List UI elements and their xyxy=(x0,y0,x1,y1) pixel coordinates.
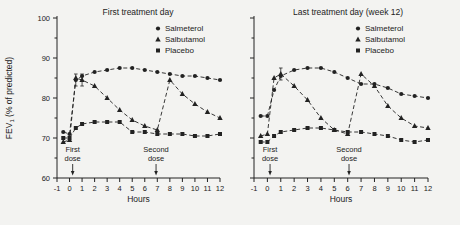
x-tick-label: 3 xyxy=(305,184,309,193)
circle-marker xyxy=(180,74,184,78)
y-axis-label: FEV1 (% of predicted) xyxy=(4,57,15,139)
square-marker xyxy=(359,130,363,134)
chart-title: First treatment day xyxy=(103,7,175,17)
square-marker xyxy=(372,132,376,136)
chart-last-treatment-day: -10123456789101112HoursLast treatment da… xyxy=(238,0,460,225)
circle-marker xyxy=(205,76,209,80)
x-tick-label: 3 xyxy=(105,184,109,193)
dose-text: Second xyxy=(143,145,168,154)
y-tick-label: 80 xyxy=(42,94,50,103)
x-tick-label: 2 xyxy=(93,184,97,193)
square-marker xyxy=(332,128,336,132)
x-tick-label: 11 xyxy=(204,184,212,193)
circle-marker xyxy=(305,66,309,70)
y-tick-label: 60 xyxy=(42,174,50,183)
circle-marker xyxy=(319,66,323,70)
triangle-marker xyxy=(205,109,210,114)
circle-marker xyxy=(426,96,430,100)
circle-marker xyxy=(399,92,403,96)
x-tick-label: 12 xyxy=(216,184,224,193)
square-marker xyxy=(143,130,147,134)
square-marker xyxy=(68,136,72,140)
dose-annotation: Firstdose xyxy=(262,145,278,176)
circle-marker xyxy=(143,68,147,72)
triangle-marker xyxy=(73,75,78,80)
triangle-marker xyxy=(155,37,160,42)
x-tick-label: 5 xyxy=(332,184,336,193)
circle-marker xyxy=(130,66,134,70)
circle-marker xyxy=(105,68,109,72)
triangle-marker xyxy=(265,131,270,136)
fev1-treatment-figure: 60708090100-10123456789101112HoursFEV1 (… xyxy=(0,0,460,225)
x-tick-label: -1 xyxy=(54,184,61,193)
x-tick-label: 2 xyxy=(292,184,296,193)
circle-marker xyxy=(156,26,160,30)
x-tick-label: 8 xyxy=(372,184,376,193)
series-salbutamol xyxy=(258,68,431,138)
x-tick-label: 7 xyxy=(359,184,363,193)
legend: SalmeterolSalbutamolPlacebo xyxy=(355,24,405,55)
circle-marker xyxy=(61,130,65,134)
circle-marker xyxy=(259,114,263,118)
x-tick-label: 9 xyxy=(180,184,184,193)
dose-annotation: Seconddose xyxy=(143,145,168,176)
x-tick-label: 1 xyxy=(279,184,283,193)
square-marker xyxy=(319,126,323,130)
series-line xyxy=(261,68,428,116)
chart-first-treatment-day: 60708090100-10123456789101112HoursFEV1 (… xyxy=(0,0,238,225)
legend-label-salmeterol: Salmeterol xyxy=(165,24,203,33)
legend-label-salbutamol: Salbutamol xyxy=(165,35,205,44)
x-tick-label: 6 xyxy=(143,184,147,193)
x-tick-label: 10 xyxy=(397,184,405,193)
square-marker xyxy=(130,130,134,134)
triangle-marker xyxy=(425,125,430,130)
dose-annotation: Firstdose xyxy=(65,145,81,176)
legend-label-salbutamol: Salbutamol xyxy=(365,35,405,44)
legend-label-placebo: Placebo xyxy=(165,46,194,55)
x-tick-label: 7 xyxy=(155,184,159,193)
dose-text: First xyxy=(65,145,80,154)
square-marker xyxy=(156,49,160,53)
dose-arrowhead xyxy=(347,171,351,176)
series-placebo xyxy=(61,120,222,140)
series-salbutamol xyxy=(61,74,223,144)
circle-marker xyxy=(93,70,97,74)
square-marker xyxy=(386,134,390,138)
triangle-marker xyxy=(358,71,363,76)
series-salmeterol xyxy=(259,66,431,118)
y-tick-label: 100 xyxy=(37,14,50,23)
triangle-marker xyxy=(355,37,360,42)
triangle-marker xyxy=(117,107,122,112)
legend-label-salmeterol: Salmeterol xyxy=(365,24,403,33)
circle-marker xyxy=(386,86,390,90)
square-marker xyxy=(193,134,197,138)
square-marker xyxy=(168,132,172,136)
square-marker xyxy=(346,130,350,134)
circle-marker xyxy=(265,114,269,118)
series-placebo xyxy=(259,126,430,144)
square-marker xyxy=(93,120,97,124)
triangle-marker xyxy=(104,95,109,100)
circle-marker xyxy=(118,66,122,70)
square-marker xyxy=(399,138,403,142)
dose-annotation: Seconddose xyxy=(336,145,361,176)
x-tick-label: 0 xyxy=(67,184,71,193)
triangle-marker xyxy=(271,75,276,80)
square-marker xyxy=(155,132,159,136)
square-marker xyxy=(413,140,417,144)
x-tick-label: 12 xyxy=(424,184,432,193)
dose-text: Second xyxy=(336,145,361,154)
series-line xyxy=(261,74,428,136)
square-marker xyxy=(80,122,84,126)
x-tick-label: 4 xyxy=(319,184,323,193)
circle-marker xyxy=(168,72,172,76)
chart-title: Last treatment day (week 12) xyxy=(293,7,403,17)
x-tick-label: 5 xyxy=(130,184,134,193)
circle-marker xyxy=(292,68,296,72)
x-tick-label: 9 xyxy=(386,184,390,193)
triangle-marker xyxy=(318,115,323,120)
square-marker xyxy=(74,126,78,130)
series-salmeterol xyxy=(61,66,222,136)
dose-arrowhead xyxy=(268,171,272,176)
dose-text: dose xyxy=(148,154,164,163)
